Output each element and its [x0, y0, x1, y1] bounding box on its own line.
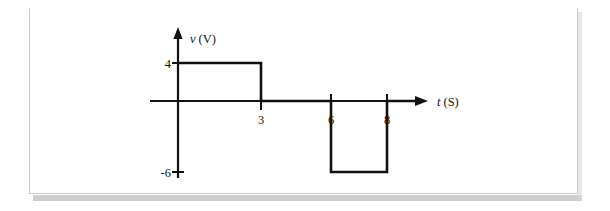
- waveform-trace: [178, 63, 418, 172]
- x-tick-label-6: 6: [328, 113, 334, 127]
- figure-container: v(V) t(S) 4 -6 3 6 8: [0, 0, 610, 211]
- x-axis-label-unit: (S): [443, 95, 458, 109]
- y-axis: [173, 27, 182, 178]
- y-tick-label-minus6: -6: [161, 166, 171, 180]
- y-axis-label: v(V): [190, 32, 216, 46]
- x-tick-label-3: 3: [258, 113, 264, 127]
- x-axis-label: t(S): [437, 95, 459, 109]
- waveform-plot: v(V) t(S) 4 -6 3 6 8: [0, 0, 610, 211]
- y-tick-label-4: 4: [165, 57, 172, 71]
- x-axis-label-variable: t: [437, 95, 441, 109]
- y-axis-label-unit: (V): [199, 32, 216, 46]
- y-axis-label-variable: v: [190, 32, 196, 46]
- x-tick-label-8: 8: [384, 113, 390, 127]
